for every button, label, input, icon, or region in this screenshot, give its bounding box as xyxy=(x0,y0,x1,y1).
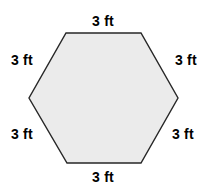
hexagon-drawing xyxy=(0,0,206,196)
side-label-top: 3 ft xyxy=(0,14,206,28)
side-label-bottom: 3 ft xyxy=(0,170,206,184)
side-label-left-lower: 3 ft xyxy=(11,127,33,141)
hexagon-figure: 3 ft 3 ft 3 ft 3 ft 3 ft 3 ft xyxy=(0,0,206,196)
side-label-left-upper: 3 ft xyxy=(11,53,33,67)
side-label-right-upper: 3 ft xyxy=(175,53,197,67)
side-label-right-lower: 3 ft xyxy=(172,127,194,141)
hexagon-shape xyxy=(29,33,178,163)
